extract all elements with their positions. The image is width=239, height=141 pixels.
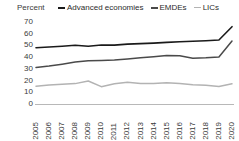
legend-item-0[interactable]: Advanced economies — [58, 3, 144, 12]
x-tick-2019: 2019 — [215, 122, 223, 140]
series-line-emdes — [36, 41, 232, 67]
x-tick-2007: 2007 — [58, 122, 66, 140]
x-tick-2006: 2006 — [45, 122, 53, 140]
x-tick-2020: 2020 — [228, 122, 236, 140]
x-tick-2010: 2010 — [97, 122, 105, 140]
x-axis-tick-labels: 2005200620072008200920102011201220132014… — [35, 106, 233, 140]
x-axis-line — [35, 104, 234, 105]
x-tick-2014: 2014 — [150, 122, 158, 140]
y-tick-20: 20 — [13, 77, 33, 85]
legend-item-2[interactable]: LICs — [194, 3, 219, 12]
series-line-advanced-economies — [36, 27, 232, 48]
y-tick-50: 50 — [13, 41, 33, 49]
y-tick-0: 0 — [13, 100, 33, 108]
y-tick-10: 10 — [13, 88, 33, 96]
plot-area — [35, 22, 233, 104]
x-tick-2008: 2008 — [71, 122, 79, 140]
series-lines — [35, 22, 233, 104]
y-axis-tick-labels: 010203040506070 — [13, 17, 33, 109]
y-tick-40: 40 — [13, 53, 33, 61]
line-chart: Percent Advanced economiesEMDEsLICs 0102… — [0, 0, 239, 141]
x-tick-2017: 2017 — [189, 122, 197, 140]
x-tick-2009: 2009 — [84, 122, 92, 140]
x-tick-2015: 2015 — [163, 122, 171, 140]
x-tick-2012: 2012 — [123, 122, 131, 140]
y-tick-30: 30 — [13, 65, 33, 73]
x-tick-2011: 2011 — [110, 123, 118, 140]
x-tick-2005: 2005 — [32, 122, 40, 140]
legend-line-swatch-icon — [194, 7, 201, 8]
legend-line-swatch-icon — [58, 7, 65, 9]
x-tick-2018: 2018 — [202, 122, 210, 140]
x-tick-2013: 2013 — [137, 122, 145, 140]
legend-label: LICs — [203, 3, 219, 12]
chart-legend: Advanced economiesEMDEsLICs — [58, 3, 219, 12]
y-tick-60: 60 — [13, 30, 33, 38]
legend-item-1[interactable]: EMDEs — [151, 3, 187, 12]
series-line-lics — [36, 81, 232, 87]
y-axis-title: Percent — [17, 3, 45, 12]
legend-line-swatch-icon — [151, 7, 158, 9]
y-tick-70: 70 — [13, 18, 33, 26]
x-tick-2016: 2016 — [176, 122, 184, 140]
legend-label: EMDEs — [160, 3, 187, 12]
legend-label: Advanced economies — [67, 3, 144, 12]
